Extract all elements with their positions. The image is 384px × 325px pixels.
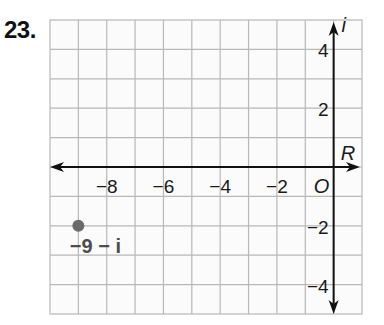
real-axis-label: R: [341, 142, 355, 164]
complex-plane-graph: −8−6−4−242−2−4ORi −9 − i: [0, 0, 384, 325]
x-tick-label: −2: [266, 176, 288, 197]
x-tick-label: −4: [209, 176, 231, 197]
imaginary-axis-label: i: [341, 14, 346, 36]
y-tick-label: −4: [307, 276, 329, 297]
data-point-label: −9 − i: [70, 235, 121, 257]
y-tick-label: 2: [318, 99, 329, 120]
y-tick-label: −2: [307, 217, 329, 238]
data-point: [72, 220, 84, 232]
x-tick-label: −6: [153, 176, 175, 197]
origin-label: O: [314, 175, 330, 197]
x-tick-label: −8: [96, 176, 118, 197]
y-tick-label: 4: [318, 40, 329, 61]
